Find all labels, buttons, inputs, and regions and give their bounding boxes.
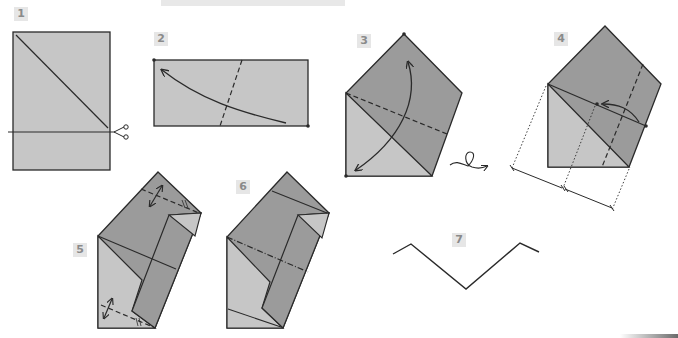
- step-1-figure: [8, 32, 128, 170]
- step-6-figure: [227, 172, 329, 328]
- step-2-figure: [152, 58, 310, 128]
- turn-over-icon: [450, 152, 487, 168]
- page-edge-shadow: [620, 334, 678, 338]
- scissors-icon: [114, 125, 128, 139]
- step-3-figure: [344, 32, 487, 178]
- step-5-figure: [98, 172, 201, 328]
- step-4-figure: [510, 26, 661, 211]
- step-7-figure: [393, 243, 539, 289]
- origami-diagram: [0, 0, 678, 338]
